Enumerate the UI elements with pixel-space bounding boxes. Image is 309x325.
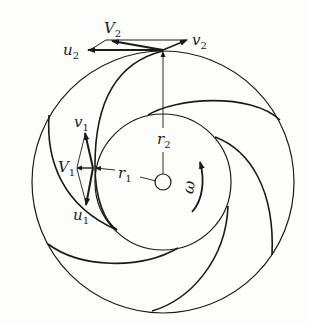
blade [95,51,163,230]
V2-vector [112,41,163,50]
label-u1: u1 [73,206,89,226]
blade [148,101,280,120]
r1-line-outer [96,168,115,170]
label-V2: V2 [104,19,121,39]
impeller-svg: V2 u2 v2 r2 v1 V1 r1 u1 ω [0,0,309,325]
inlet-velocity-triangle [77,133,93,205]
hub [155,174,171,190]
blades [48,51,280,311]
label-omega: ω [178,179,199,195]
v2-vector [163,40,187,50]
label-r1: r1 [118,164,132,184]
label-V1: V1 [58,158,75,178]
r1-line-inner [140,177,156,181]
blade [48,244,178,263]
u1-vector [86,168,93,205]
label-u2: u2 [63,41,79,61]
label-v2: v2 [192,31,207,51]
outlet-velocity-triangle [88,40,187,50]
impeller-diagram: V2 u2 v2 r2 v1 V1 r1 u1 ω [0,0,309,325]
triangle-edge-bottom [77,169,86,203]
v1-vector [85,133,93,168]
triangle-edge-top [77,135,85,167]
label-r2: r2 [157,130,171,150]
blade [152,206,228,311]
triangle-left-edge [90,40,106,50]
label-v1: v1 [74,113,89,133]
